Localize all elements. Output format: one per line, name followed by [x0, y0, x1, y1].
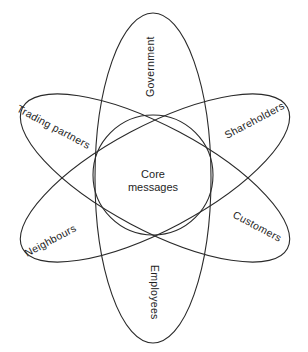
label-trading-partners: Trading partners: [15, 102, 93, 151]
label-government: Government: [144, 36, 156, 97]
label-employees: Employees: [149, 265, 161, 320]
label-shareholders: Shareholders: [222, 99, 286, 141]
stakeholder-diagram: Core messages Government Employees Tradi…: [0, 0, 308, 352]
core-label-line1: Core: [141, 168, 165, 180]
core-label-line2: messages: [128, 181, 179, 193]
label-neighbours: Neighbours: [22, 222, 78, 259]
label-customers: Customers: [231, 208, 284, 244]
